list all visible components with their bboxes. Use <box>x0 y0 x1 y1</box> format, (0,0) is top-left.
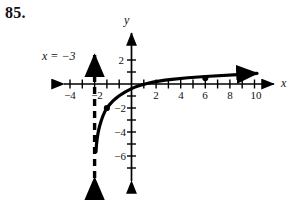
x-tick-label: −4 <box>64 89 76 101</box>
curve-point <box>202 75 208 81</box>
x-tick-label: −2 <box>91 89 103 101</box>
y-tick-label: −6 <box>114 150 126 162</box>
y-tick-label: 2 <box>119 54 125 66</box>
figure-85: 85. x = −3 x y <box>0 0 296 203</box>
y-tick-label: −4 <box>114 126 126 138</box>
x-tick-label: 2 <box>153 89 159 101</box>
x-tick-label: 10 <box>251 89 263 101</box>
x-tick-label: 8 <box>227 89 233 101</box>
coordinate-plot: −4 −2 2 4 6 8 10 2 −2 −4 −6 <box>0 0 296 203</box>
y-tick-labels: 2 −2 −4 −6 <box>114 54 126 162</box>
curve-point <box>104 105 110 111</box>
y-tick-label: −2 <box>114 102 126 114</box>
x-tick-label: 6 <box>202 89 208 101</box>
x-tick-label: 4 <box>178 89 184 101</box>
